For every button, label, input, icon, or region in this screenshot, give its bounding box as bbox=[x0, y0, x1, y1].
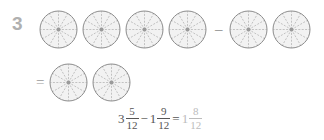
subtrahend-denominator: 12 bbox=[157, 118, 170, 131]
row-minus-sign: – bbox=[210, 22, 228, 37]
equation-subtrahend: 1 9 12 bbox=[150, 106, 171, 131]
pie-model-top-2[interactable] bbox=[81, 9, 122, 50]
minuend-denominator: 12 bbox=[126, 118, 139, 131]
pie-model-top-6[interactable] bbox=[271, 9, 312, 50]
minuend-whole: 3 bbox=[118, 112, 125, 125]
equation-answer[interactable]: 1 8 12 bbox=[182, 106, 203, 131]
problem-number: 3 bbox=[12, 14, 23, 33]
equation-minuend: 3 5 12 bbox=[118, 106, 139, 131]
subtrahend-numerator: 9 bbox=[160, 106, 168, 118]
minuend-numerator: 5 bbox=[128, 106, 136, 118]
answer-denominator: 12 bbox=[189, 118, 202, 131]
answer-whole: 1 bbox=[182, 112, 189, 125]
answer-numerator: 8 bbox=[192, 106, 200, 118]
pie-model-bottom-1[interactable] bbox=[48, 62, 89, 103]
subtrahend-whole: 1 bbox=[150, 112, 157, 125]
model-row-top: – bbox=[38, 9, 314, 50]
pie-model-top-5[interactable] bbox=[228, 9, 269, 50]
minuend-fraction: 5 12 bbox=[126, 106, 139, 131]
pie-model-top-4[interactable] bbox=[167, 9, 208, 50]
worksheet-problem: 3 – = 3 5 12 − 1 9 12 = 1 8 12 bbox=[0, 0, 324, 140]
subtraction-operator: − bbox=[139, 112, 150, 125]
subtrahend-fraction: 9 12 bbox=[157, 106, 170, 131]
pie-model-top-3[interactable] bbox=[124, 9, 165, 50]
model-row-bottom: = bbox=[36, 62, 134, 103]
equation: 3 5 12 − 1 9 12 = 1 8 12 bbox=[118, 106, 202, 131]
equals-operator: = bbox=[170, 112, 181, 125]
pie-model-top-1[interactable] bbox=[38, 9, 79, 50]
row-equals-sign: = bbox=[36, 75, 48, 90]
pie-model-bottom-2[interactable] bbox=[91, 62, 132, 103]
answer-fraction: 8 12 bbox=[189, 106, 202, 131]
